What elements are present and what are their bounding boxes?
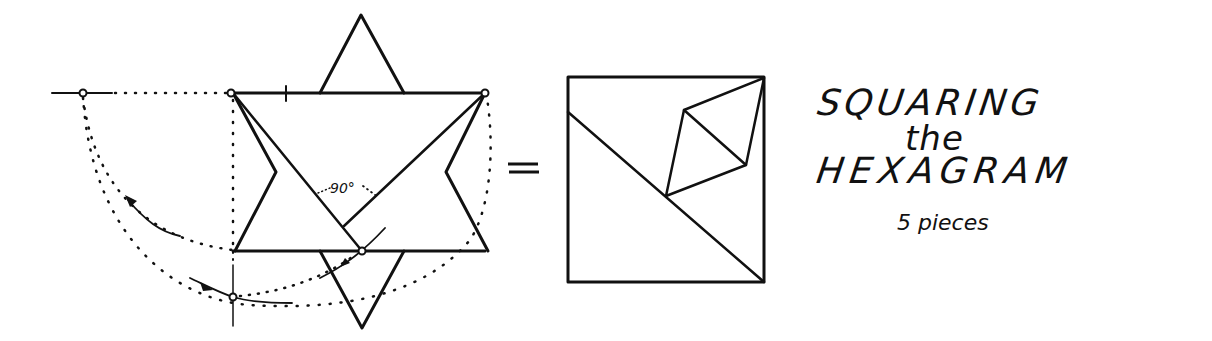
- hexagram-figure: [52, 15, 491, 328]
- point-top-right: [482, 90, 489, 97]
- arrowhead-lower: [200, 282, 213, 291]
- top-triangle: [320, 15, 404, 93]
- point-left: [80, 90, 87, 97]
- point-top-left: [228, 90, 235, 97]
- dotted-arc-lower: [240, 255, 355, 296]
- arrow-arc-left: [128, 200, 180, 236]
- angle-label: 90°: [330, 180, 355, 196]
- title-line-squaring: SQUARING: [815, 82, 1045, 123]
- equals-sign: [508, 164, 539, 172]
- left-zigzag: [233, 93, 276, 251]
- arrowhead-left: [125, 195, 137, 207]
- diagram-canvas: 90° SQUARING the HEXAGRAM 5 pieces: [0, 0, 1212, 341]
- dotted-arc-outer: [83, 95, 491, 306]
- subtitle-pieces: 5 pieces: [897, 210, 989, 235]
- square-outline: [568, 77, 764, 282]
- square-figure: [568, 77, 764, 282]
- right-zigzag: [446, 93, 488, 251]
- title-line-hexagram: HEXAGRAM: [814, 150, 1075, 191]
- point-center-bottom: [359, 248, 366, 255]
- kite-inner-cut: [684, 110, 746, 165]
- diagonal-cut: [233, 93, 362, 251]
- point-lower-left: [230, 294, 237, 301]
- bottom-triangle: [320, 251, 404, 328]
